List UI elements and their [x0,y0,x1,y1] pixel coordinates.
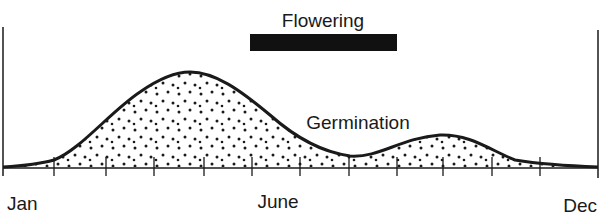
flowering-bar [250,34,397,51]
flowering-label: Flowering [282,10,364,31]
germination-area [3,72,598,167]
month-label-dec: Dec [563,195,597,216]
seasonal-diagram: Flowering Germination Jan June Dec [0,0,606,223]
germination-label: Germination [306,112,410,133]
month-label-june: June [257,191,298,212]
month-label-jan: Jan [7,193,38,214]
